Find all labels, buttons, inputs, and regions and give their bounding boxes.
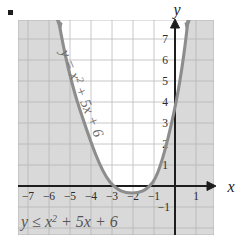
x-tick-label: −5 xyxy=(64,190,76,202)
parabola-inequality-graph: y x −7 −6 −5 −4 −3 −2 −1 1 7 6 5 4 3 2 1… xyxy=(0,0,246,247)
graph-figure: y x −7 −6 −5 −4 −3 −2 −1 1 7 6 5 4 3 2 1… xyxy=(0,0,246,247)
x-tick-label: −3 xyxy=(106,190,118,202)
y-axis-label: y xyxy=(171,1,181,19)
y-tick-label: 6 xyxy=(162,54,168,66)
y-tick-label: 4 xyxy=(162,96,168,108)
svg-text:y ≤ x2 + 5x + 6: y ≤ x2 + 5x + 6 xyxy=(19,213,118,231)
x-tick-label: −7 xyxy=(22,190,34,202)
inequality-lead: y ≤ x xyxy=(19,213,52,231)
y-tick-label: 7 xyxy=(162,33,168,45)
inequality-tail: + 5x + 6 xyxy=(57,213,118,230)
x-tick-label: −6 xyxy=(43,190,55,202)
y-tick-label: −1 xyxy=(158,201,170,213)
y-tick-label: 3 xyxy=(162,117,168,129)
x-tick-label: −4 xyxy=(85,190,97,202)
x-axis-label: x xyxy=(226,178,234,195)
bullet-marker xyxy=(8,10,13,15)
inequality-label: y ≤ x2 + 5x + 6 xyxy=(19,213,118,231)
x-tick-label: 1 xyxy=(193,190,199,202)
y-tick-label: 5 xyxy=(162,75,168,87)
